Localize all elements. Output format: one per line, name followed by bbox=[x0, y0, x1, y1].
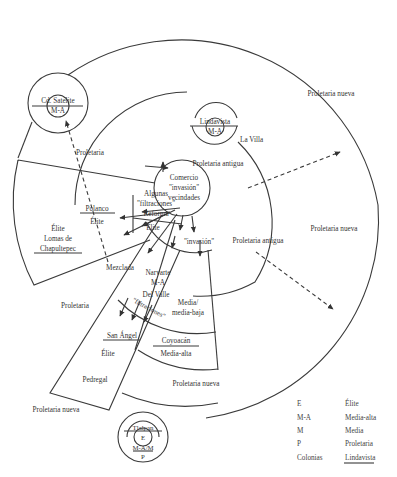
label-algunas-filtraciones: "filtraciones" bbox=[137, 200, 175, 208]
legend: E Élite M-A Media-alta M Media P Proleta… bbox=[297, 398, 377, 463]
lindavista-satellite: Lindavista M-A bbox=[190, 103, 238, 145]
label-elite-inner: Élite bbox=[146, 222, 160, 232]
label-media-2: media-baja bbox=[172, 309, 205, 317]
legend-meaning-p: Proletaria bbox=[345, 440, 374, 448]
dashed-arrow-northeast bbox=[248, 152, 340, 188]
label-san-angel-elite: Élite bbox=[101, 348, 115, 358]
tlalpan-class-e: E bbox=[141, 434, 145, 441]
pedregal-arc bbox=[122, 393, 218, 406]
label-reforma: Reforma bbox=[143, 210, 169, 218]
label-coyoacan-ma: Media-alta bbox=[160, 350, 192, 358]
legend-meaning-m: Media bbox=[345, 427, 364, 435]
legend-abbr-p: P bbox=[297, 440, 301, 448]
label-lomas-2: Chapultepec bbox=[40, 245, 76, 253]
tlalpan-satellite: Tlalpan E M-A/M P bbox=[118, 412, 168, 462]
label-lomas-1: Lomas de bbox=[44, 235, 72, 243]
label-algunas: Algunas bbox=[144, 190, 168, 198]
label-mezclada: Mezclada bbox=[106, 264, 135, 272]
legend-meaning-ma: Media-alta bbox=[345, 414, 377, 422]
dashed-arrow-southeast bbox=[256, 252, 333, 309]
label-proletaria-nueva-e: Proletaria nueva bbox=[311, 225, 359, 233]
label-proletaria-w: Proletaria bbox=[61, 302, 90, 310]
label-del-valle: Del Valle bbox=[143, 291, 170, 299]
cd-satelite-class: M-A bbox=[51, 107, 66, 115]
label-la-villa: La Villa bbox=[240, 136, 264, 144]
label-san-angel: San Ángel bbox=[107, 330, 137, 340]
label-proletaria-nueva-s: Proletaria nueva bbox=[173, 380, 221, 388]
label-proletaria-antigua-e: Proletaria antigua bbox=[233, 237, 285, 245]
legend-abbr-ma: M-A bbox=[297, 414, 312, 422]
legend-meaning-colonias: Lindavista bbox=[345, 454, 376, 462]
outer-ring-left-boundary bbox=[18, 122, 32, 158]
label-narvarte-ma: M-A bbox=[151, 279, 166, 287]
legend-abbr-m: M bbox=[297, 427, 304, 435]
label-coyoacan: Coyoacán bbox=[162, 337, 191, 345]
urban-model-diagram: Lindavista M-A Cd. Satélite M-A Comercio… bbox=[0, 0, 397, 477]
label-proletaria-nueva-ne: Proletaria nueva bbox=[308, 90, 356, 98]
label-polanco-elite: Élite bbox=[90, 216, 104, 226]
label-proletaria-nueva-sw: Proletaria nueva bbox=[33, 406, 81, 414]
lindavista-label: Lindavista bbox=[200, 118, 231, 126]
cd-satelite-satellite: Cd. Satélite M-A bbox=[28, 73, 88, 133]
lindavista-class: M-A bbox=[208, 128, 223, 136]
label-lomas-elite: Élite bbox=[51, 223, 65, 233]
tlalpan-class-ma-m: M-A/M bbox=[132, 444, 153, 451]
label-proletaria-nw: Proletaria bbox=[76, 149, 105, 157]
legend-abbr-colonias: Colonias bbox=[297, 454, 323, 462]
label-invasion-s: "invasión" bbox=[184, 238, 214, 246]
legend-abbr-e: E bbox=[297, 400, 302, 408]
legend-meaning-e: Élite bbox=[345, 398, 359, 408]
tlalpan-label: Tlalpan bbox=[133, 424, 154, 431]
s-wedge-right bbox=[208, 250, 218, 370]
tlalpan-class-p: P bbox=[141, 453, 145, 460]
center-line-1: Comercio bbox=[170, 174, 199, 182]
label-proletaria-antigua-n: Proletaria antigua bbox=[193, 160, 245, 168]
label-polanco: Polanco bbox=[85, 205, 109, 213]
center-line-2: "invasión" bbox=[169, 184, 199, 192]
cd-satelite-label: Cd. Satélite bbox=[41, 97, 75, 105]
label-media-1: Media/ bbox=[178, 299, 198, 307]
label-pedregal: Pedregal bbox=[82, 376, 107, 384]
dashed-arrow-to-satelite bbox=[66, 121, 108, 262]
label-narvarte: Narvarte bbox=[145, 269, 170, 277]
